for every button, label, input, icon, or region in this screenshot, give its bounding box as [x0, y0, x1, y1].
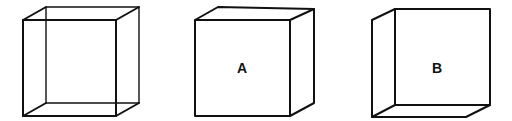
- cube-b-label: B: [432, 60, 442, 76]
- cube-a-right-face: [290, 9, 314, 116]
- cube-diagram: A B: [0, 0, 512, 121]
- edge-top-left: [23, 7, 46, 20]
- cube-b-left-face: [372, 9, 395, 117]
- cube-a-top-face: [195, 7, 314, 20]
- cube-b: B: [372, 9, 490, 117]
- cube-b-main-face: [395, 9, 490, 105]
- front-face: [23, 20, 116, 116]
- cube-a-label: A: [237, 60, 247, 76]
- necker-cube-wireframe: [23, 7, 139, 116]
- back-face: [46, 7, 139, 103]
- cube-a: A: [195, 7, 314, 116]
- edge-bottom-left: [23, 103, 46, 116]
- edge-top-right: [116, 7, 139, 20]
- edge-bottom-right: [116, 103, 139, 116]
